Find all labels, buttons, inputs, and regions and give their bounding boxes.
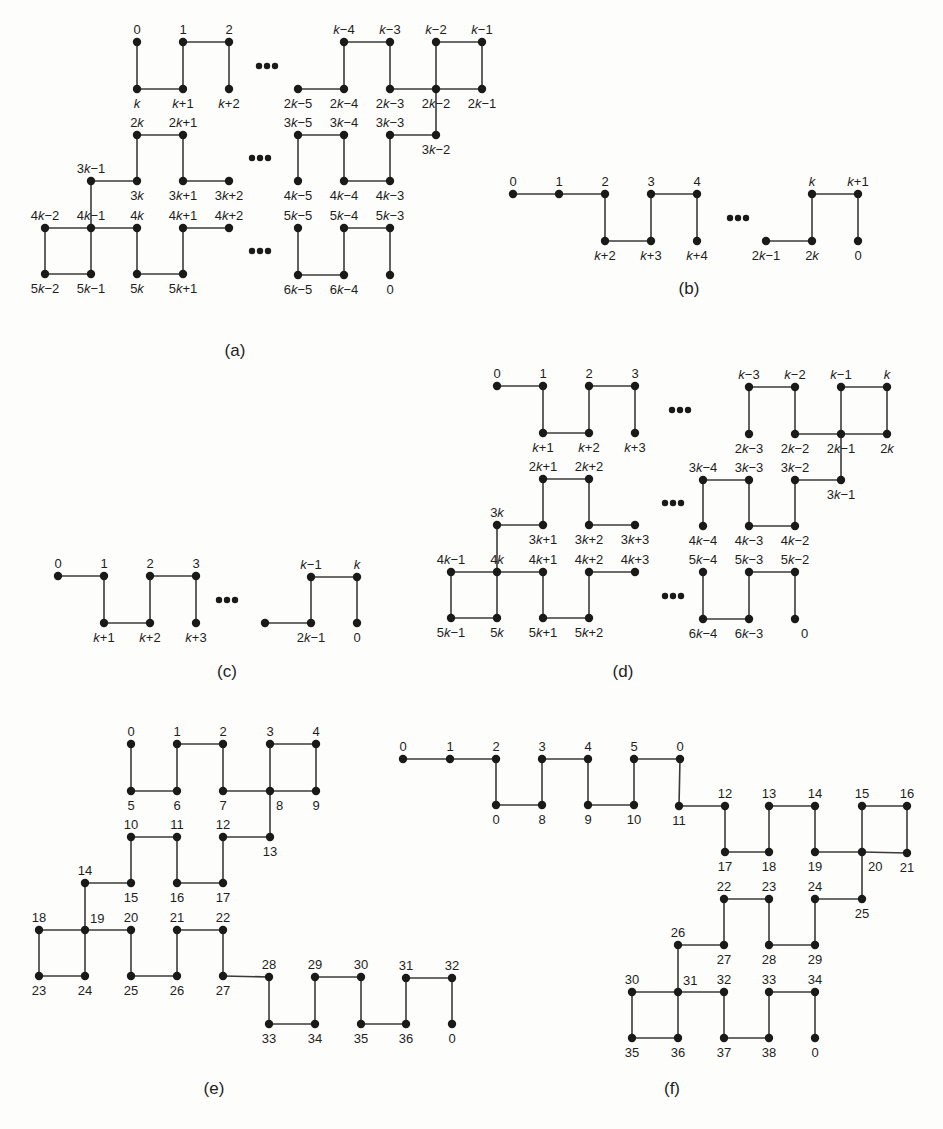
node-label-f-f22: 22 bbox=[717, 879, 731, 894]
node-label-b-b1: 1 bbox=[555, 174, 562, 189]
node-label-c-c0: 0 bbox=[54, 556, 61, 571]
node-label-a-a1: 1 bbox=[179, 22, 186, 37]
node-a-a4k5 bbox=[294, 177, 302, 185]
node-label-d-d2k3: 2k−3 bbox=[735, 441, 764, 456]
node-label-a-ak4: k−4 bbox=[333, 22, 354, 37]
node-label-d-d3: 3 bbox=[631, 366, 638, 381]
node-d-d4kp2 bbox=[585, 568, 593, 576]
node-label-a-a3k4: 3k−4 bbox=[330, 115, 359, 130]
node-label-e-e9: 9 bbox=[312, 798, 319, 813]
node-a-ak2 bbox=[432, 38, 440, 46]
node-f-f3 bbox=[538, 755, 546, 763]
node-label-d-d5k3: 5k−3 bbox=[735, 552, 764, 567]
node-label-a-a3k: 3k bbox=[130, 188, 145, 203]
node-f-f0c bbox=[676, 755, 684, 763]
edge-f-f0c-f11 bbox=[679, 759, 680, 806]
node-label-c-ckp1: k+1 bbox=[93, 630, 114, 645]
node-label-f-f1: 1 bbox=[446, 739, 453, 754]
node-label-c-c2: 2 bbox=[146, 556, 153, 571]
node-label-e-e4: 4 bbox=[312, 724, 319, 739]
node-label-f-f24: 24 bbox=[808, 879, 822, 894]
node-a-a4k2 bbox=[41, 224, 49, 232]
node-d-dk1 bbox=[837, 383, 845, 391]
node-label-e-e6: 6 bbox=[173, 798, 180, 813]
node-label-f-f11: 11 bbox=[672, 813, 686, 828]
node-f-f32 bbox=[720, 988, 728, 996]
node-a-a3k4 bbox=[340, 131, 348, 139]
node-label-d-d4kp1: 4k+1 bbox=[529, 552, 558, 567]
node-e-e34 bbox=[311, 1020, 319, 1028]
node-label-f-f4: 4 bbox=[584, 739, 591, 754]
node-d-d6k4 bbox=[699, 615, 707, 623]
node-d-dkp1 bbox=[539, 429, 547, 437]
node-e-e17 bbox=[219, 879, 227, 887]
node-e-e0b bbox=[448, 1020, 456, 1028]
node-label-d-d4k4: 4k−4 bbox=[689, 533, 718, 548]
node-label-f-f16: 16 bbox=[900, 786, 914, 801]
node-a-a3k3 bbox=[386, 131, 394, 139]
node-label-f-f34: 34 bbox=[808, 972, 822, 987]
node-a-a2 bbox=[225, 38, 233, 46]
node-d-dkp3 bbox=[631, 429, 639, 437]
node-label-a-akp2: k+2 bbox=[218, 96, 239, 111]
node-e-e25 bbox=[127, 972, 135, 980]
node-label-e-e11: 11 bbox=[170, 817, 184, 832]
node-label-d-d0b: 0 bbox=[801, 626, 808, 641]
node-label-a-a3kp1: 3k+1 bbox=[169, 188, 198, 203]
ellipsis-dot bbox=[249, 155, 255, 161]
node-a-ak3 bbox=[386, 38, 394, 46]
ellipsis-a-0 bbox=[256, 63, 278, 69]
node-label-e-e0b: 0 bbox=[448, 1031, 455, 1046]
ellipsis-dot bbox=[685, 407, 691, 413]
node-label-a-a4k: 4k bbox=[130, 208, 145, 223]
node-label-f-f0c: 0 bbox=[676, 739, 683, 754]
ellipsis-d-6 bbox=[662, 500, 684, 506]
node-label-f-f36: 36 bbox=[671, 1045, 685, 1060]
node-f-f23 bbox=[765, 895, 773, 903]
ellipsis-dot bbox=[670, 593, 676, 599]
node-label-e-e13: 13 bbox=[263, 844, 277, 859]
node-d-d3k3 bbox=[745, 476, 753, 484]
node-label-e-e18: 18 bbox=[32, 910, 46, 925]
node-d-dkp2 bbox=[585, 429, 593, 437]
node-label-a-a4k4: 4k−4 bbox=[330, 188, 359, 203]
node-f-f31 bbox=[674, 988, 682, 996]
node-f-f18 bbox=[765, 848, 773, 856]
node-label-f-f17: 17 bbox=[718, 859, 732, 874]
node-label-e-e17: 17 bbox=[216, 890, 230, 905]
node-label-a-a3k1: 3k−1 bbox=[77, 161, 106, 176]
ellipsis-dot bbox=[224, 597, 230, 603]
node-f-f14 bbox=[811, 802, 819, 810]
node-label-e-e24: 24 bbox=[78, 983, 92, 998]
node-label-a-ak3: k−3 bbox=[379, 22, 400, 37]
node-label-d-d3k: 3k bbox=[490, 505, 505, 520]
node-label-e-e3: 3 bbox=[266, 724, 273, 739]
node-e-e2 bbox=[219, 740, 227, 748]
node-label-f-f23: 23 bbox=[762, 879, 776, 894]
node-a-a3k2 bbox=[432, 131, 440, 139]
node-f-f0e bbox=[811, 1034, 819, 1042]
node-label-c-c0b: 0 bbox=[353, 630, 360, 645]
node-e-e13 bbox=[266, 833, 274, 841]
node-label-a-a3k3: 3k−3 bbox=[376, 115, 405, 130]
ellipsis-c-4 bbox=[216, 597, 238, 603]
node-f-f33 bbox=[765, 988, 773, 996]
node-label-e-e28: 28 bbox=[262, 957, 276, 972]
ellipsis-dot bbox=[216, 597, 222, 603]
node-e-e31 bbox=[402, 974, 410, 982]
node-d-d3k1 bbox=[837, 476, 845, 484]
node-c-ckp1 bbox=[100, 619, 108, 627]
node-label-b-b2: 2 bbox=[601, 174, 608, 189]
node-label-e-e15: 15 bbox=[124, 890, 138, 905]
node-f-f19 bbox=[811, 848, 819, 856]
node-label-d-d3kp3: 3k+3 bbox=[621, 532, 650, 547]
node-label-b-bkp2: k+2 bbox=[594, 248, 615, 263]
node-f-f2 bbox=[492, 755, 500, 763]
node-d-d5k4 bbox=[699, 568, 707, 576]
node-label-a-a3kp2: 3k+2 bbox=[215, 188, 244, 203]
node-label-b-bk: k bbox=[809, 174, 817, 189]
node-label-a-a2k1: 2k−1 bbox=[468, 96, 497, 111]
node-e-e12 bbox=[219, 833, 227, 841]
node-d-dk3 bbox=[745, 383, 753, 391]
node-d-d0 bbox=[493, 382, 501, 390]
